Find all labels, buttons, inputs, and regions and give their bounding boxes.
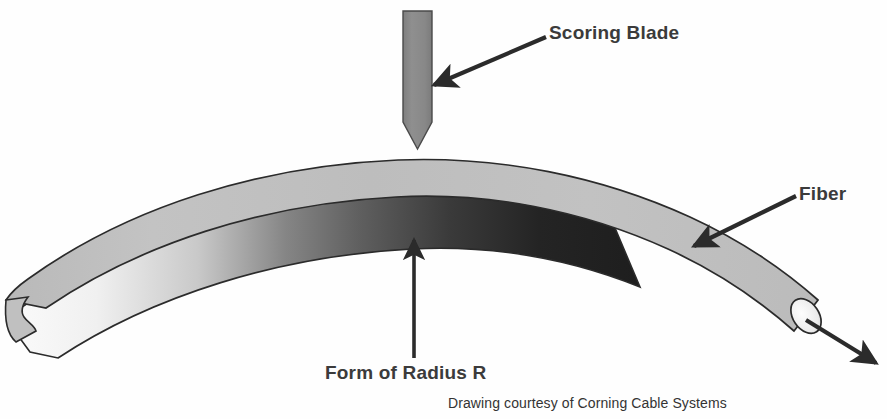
fiber-arrow xyxy=(694,196,796,246)
scoring-blade-shape xyxy=(403,11,432,149)
fiber-exit-arrow xyxy=(806,320,876,363)
label-form-of-radius: Form of Radius R xyxy=(325,362,487,384)
label-fiber: Fiber xyxy=(799,183,846,205)
label-drawing-credit: Drawing courtesy of Corning Cable System… xyxy=(448,395,727,411)
diagram-canvas xyxy=(0,0,887,419)
label-scoring-blade: Scoring Blade xyxy=(549,22,679,44)
fiber-cleaving-diagram: Scoring Blade Fiber Form of Radius R Dra… xyxy=(0,0,887,419)
scoring-blade-arrow xyxy=(434,37,546,85)
